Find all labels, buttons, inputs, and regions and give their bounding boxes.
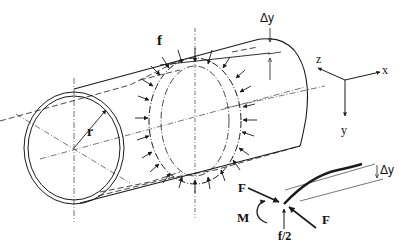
diagram-canvas: f r Δy x z y F F M f/2 Δy	[0, 0, 414, 250]
delta-y-top-dimension	[268, 28, 281, 80]
delta-y-top-label: Δy	[260, 12, 274, 24]
axis-x-label: x	[382, 64, 388, 76]
cylinder-drawing	[0, 0, 414, 250]
half-load-label: f/2	[278, 230, 291, 242]
radial-load-arrows	[135, 48, 257, 193]
ring-load-label: f	[157, 33, 162, 48]
left-ring-centerlines	[16, 78, 305, 222]
tube-outline	[74, 39, 308, 203]
axis-y-label: y	[341, 124, 347, 136]
axis-z-label: z	[316, 53, 321, 65]
moment-label: M	[237, 211, 249, 224]
coordinate-axes	[318, 68, 380, 116]
force-lower-label: F	[322, 213, 330, 226]
deflected-top-line	[160, 53, 270, 65]
deformed-generators	[0, 60, 300, 196]
free-body-detail	[248, 164, 383, 229]
force-upper-label: F	[238, 181, 246, 194]
radius-label: r	[87, 125, 93, 139]
delta-y-detail-label: Δy	[380, 164, 394, 176]
